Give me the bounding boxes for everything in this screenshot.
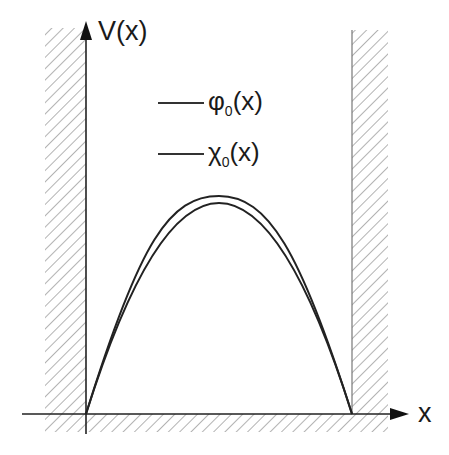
y-axis-label: V(x) [98,16,148,47]
legend-line-phi0 [158,102,204,104]
legend-item-phi0: φ0(x) [158,86,263,119]
x-axis-label: x [418,398,432,429]
legend-label-phi0: φ0(x) [208,86,263,119]
square-well-diagram [0,0,449,455]
legend-label-chi0: χ0(x) [208,137,260,170]
curve-chi0 [86,203,352,414]
right-wall-hatch [352,30,388,414]
legend-line-chi0 [158,153,204,155]
floor-hatch [45,414,388,432]
left-wall-hatch [45,28,86,414]
legend-item-chi0: χ0(x) [158,137,260,170]
x-axis-arrow-icon [390,408,409,420]
